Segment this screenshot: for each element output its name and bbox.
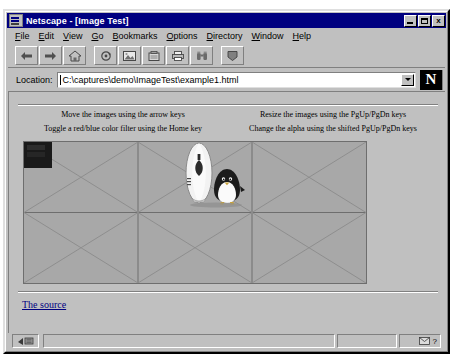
location-input-wrapper[interactable]: C:\captures\demo\ImageTest\example1.html bbox=[57, 72, 416, 88]
broken-key-icon bbox=[17, 336, 35, 346]
print-icon bbox=[171, 50, 185, 62]
instructions-block: Move the images using the arrow keys Res… bbox=[18, 109, 438, 137]
reload-button[interactable] bbox=[94, 46, 117, 65]
menu-label-rest: dit bbox=[45, 31, 55, 41]
status-message bbox=[43, 334, 335, 348]
toolbar-group-navigation bbox=[15, 46, 87, 65]
home-icon bbox=[68, 50, 82, 62]
home-button[interactable] bbox=[63, 46, 86, 65]
instruction-move: Move the images using the arrow keys bbox=[18, 109, 228, 121]
open-button[interactable] bbox=[142, 46, 165, 65]
progress-bar bbox=[337, 334, 397, 348]
dark-image-patch bbox=[24, 142, 52, 168]
menu-item-window[interactable]: Window bbox=[248, 30, 289, 43]
find-binoculars-icon bbox=[195, 50, 209, 62]
location-input[interactable]: C:\captures\demo\ImageTest\example1.html bbox=[61, 75, 239, 85]
toolbar-leading-gap bbox=[8, 46, 15, 65]
menu-label-rest: indow bbox=[260, 31, 284, 41]
question-mark-icon[interactable]: ? bbox=[433, 337, 437, 346]
instruction-resize: Resize the images using the PgUp/PgDn ke… bbox=[228, 109, 438, 121]
menu-item-bookmarks[interactable]: Bookmarks bbox=[108, 30, 162, 43]
menu-mnemonic: W bbox=[252, 31, 261, 41]
back-button[interactable] bbox=[15, 46, 38, 65]
images-button[interactable] bbox=[118, 46, 141, 65]
toolbar-group-stop bbox=[221, 46, 245, 65]
instructions-row: Move the images using the arrow keys Res… bbox=[18, 109, 438, 121]
window-title: Netscape - [Image Test] bbox=[26, 16, 404, 26]
netscape-window-icon[interactable] bbox=[9, 14, 23, 27]
browser-window: Netscape - [Image Test] x File Edit View… bbox=[3, 9, 450, 354]
window-control-buttons: x bbox=[404, 15, 445, 27]
menu-label-rest: ile bbox=[21, 31, 30, 41]
stop-button[interactable] bbox=[221, 46, 244, 65]
toolbar-group-actions bbox=[94, 46, 214, 65]
menu-item-file[interactable]: File bbox=[11, 30, 35, 43]
minimize-button[interactable] bbox=[404, 15, 417, 27]
security-status-button[interactable] bbox=[12, 334, 39, 348]
forward-arrow-icon bbox=[43, 50, 58, 61]
horizontal-rule-bottom bbox=[18, 291, 438, 293]
close-button[interactable]: x bbox=[432, 15, 445, 27]
menu-label-rest: iew bbox=[69, 31, 83, 41]
menu-item-edit[interactable]: Edit bbox=[35, 30, 60, 43]
toolbar-separator-2 bbox=[214, 46, 221, 65]
title-bar[interactable]: Netscape - [Image Test] x bbox=[7, 13, 446, 28]
menu-item-directory[interactable]: Directory bbox=[203, 30, 248, 43]
status-bar: ? bbox=[8, 333, 445, 349]
menu-item-help[interactable]: Help bbox=[289, 30, 317, 43]
back-arrow-icon bbox=[19, 50, 34, 61]
location-bar: Location: C:\captures\demo\ImageTest\exa… bbox=[8, 69, 445, 90]
instruction-color-filter: Toggle a red/blue color filter using the… bbox=[18, 123, 228, 135]
chevron-down-icon bbox=[405, 78, 411, 81]
images-icon bbox=[122, 50, 137, 62]
menu-label-rest: ptions bbox=[173, 31, 197, 41]
image-test-applet[interactable] bbox=[23, 141, 367, 284]
menu-label-rest: o bbox=[98, 31, 103, 41]
source-link[interactable]: The source bbox=[22, 299, 66, 310]
status-right-icons[interactable]: ? bbox=[399, 334, 441, 348]
print-button[interactable] bbox=[166, 46, 189, 65]
forward-button[interactable] bbox=[39, 46, 62, 65]
menu-label-rest: elp bbox=[299, 31, 311, 41]
maximize-button[interactable] bbox=[418, 15, 431, 27]
instruction-alpha: Change the alpha using the shifted PgUp/… bbox=[228, 123, 438, 135]
navigation-toolbar bbox=[8, 44, 445, 68]
menu-label-rest: irectory bbox=[213, 31, 243, 41]
stop-icon bbox=[226, 50, 239, 62]
mail-icon bbox=[419, 337, 430, 345]
find-button[interactable] bbox=[190, 46, 213, 65]
location-dropdown-button[interactable] bbox=[401, 74, 414, 86]
menu-bar: File Edit View Go Bookmarks Options Dire… bbox=[7, 29, 446, 43]
netscape-logo[interactable]: N bbox=[420, 70, 443, 90]
open-icon bbox=[147, 50, 161, 62]
menu-label-rest: ookmarks bbox=[118, 31, 157, 41]
location-label: Location: bbox=[16, 75, 53, 85]
horizontal-rule-top bbox=[18, 104, 438, 106]
menu-item-options[interactable]: Options bbox=[162, 30, 202, 43]
applet-overlay bbox=[24, 142, 366, 283]
instructions-row: Toggle a red/blue color filter using the… bbox=[18, 123, 438, 135]
reload-icon bbox=[99, 50, 113, 62]
toolbar-separator-1 bbox=[87, 46, 94, 65]
menu-item-view[interactable]: View bbox=[59, 30, 87, 43]
browser-content-area: Move the images using the arrow keys Res… bbox=[8, 91, 445, 334]
html-page: Move the images using the arrow keys Res… bbox=[9, 92, 445, 334]
screenshot-root: Netscape - [Image Test] x File Edit View… bbox=[0, 0, 457, 363]
menu-item-go[interactable]: Go bbox=[87, 30, 108, 43]
